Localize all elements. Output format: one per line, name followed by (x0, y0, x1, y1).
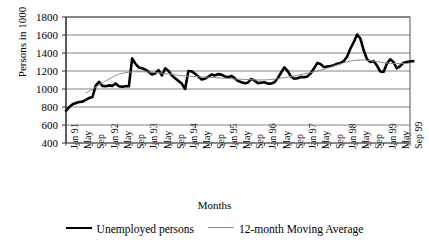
legend-swatch-moving-average (208, 227, 234, 228)
legend-swatch-unemployed (66, 227, 92, 229)
chart-legend: Unemployed persons12-month Moving Averag… (0, 222, 429, 235)
legend-label-unemployed: Unemployed persons (97, 223, 194, 235)
unemployment-chart-figure: Persons in 1000 Months 40060080010001200… (0, 0, 429, 248)
plot-area (0, 0, 429, 248)
legend-label-moving-average: 12-month Moving Average (239, 223, 363, 235)
